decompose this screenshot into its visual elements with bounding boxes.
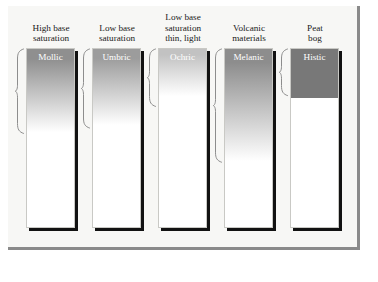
horizon-fill-melanic [225,49,272,161]
column-header-line: Low base [84,23,150,34]
column-header-line: Volcanic [216,23,282,34]
profile-box-histic: Histic [290,48,339,228]
horizon-label-ochric: Ochric [159,52,206,62]
depth-brace-melanic [212,48,223,163]
soil-profile-histic: Histic [290,48,339,228]
column-header-histic: Peatbog [282,23,348,44]
horizon-label-histic: Histic [291,52,338,62]
soil-profile-melanic: Melanic [224,48,273,228]
soil-profile-umbric: Umbric [92,48,141,228]
soil-profile-mollic: Mollic [26,48,75,228]
horizon-label-umbric: Umbric [93,52,140,62]
column-header-line: High base [18,23,84,34]
horizon-label-mollic: Mollic [27,52,74,62]
column-header-line: Low base [150,12,216,23]
soil-profile-ochric: Ochric [158,48,207,228]
column-header-line: saturation [18,33,84,44]
column-header-melanic: Volcanicmaterials [216,23,282,44]
profile-box-umbric: Umbric [92,48,141,228]
column-header-ochric: Low basesaturationthin, light [150,12,216,44]
profile-box-mollic: Mollic [26,48,75,228]
column-header-line: saturation [150,23,216,34]
column-header-line: materials [216,33,282,44]
soil-horizon-diagram: High basesaturationMollicLow basesaturat… [0,0,378,282]
depth-brace-histic [278,48,289,97]
column-header-line: thin, light [150,33,216,44]
column-header-mollic: High basesaturation [18,23,84,44]
profile-box-ochric: Ochric [158,48,207,228]
horizon-label-melanic: Melanic [225,52,272,62]
column-header-line: saturation [84,33,150,44]
depth-brace-mollic [14,48,25,134]
depth-brace-umbric [80,48,91,129]
column-header-line: bog [282,33,348,44]
column-header-umbric: Low basesaturation [84,23,150,44]
depth-brace-ochric [146,48,157,107]
column-header-line: Peat [282,23,348,34]
profile-box-melanic: Melanic [224,48,273,228]
